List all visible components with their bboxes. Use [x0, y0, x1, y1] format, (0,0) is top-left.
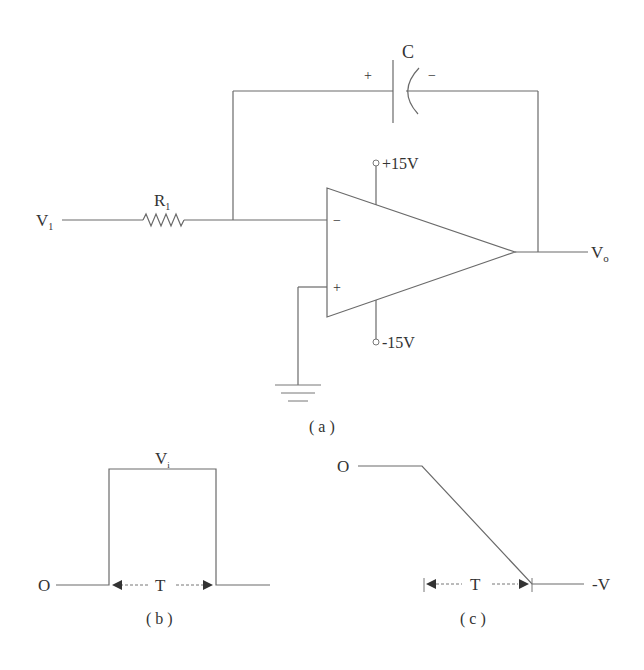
input-voltage-label: V1: [36, 211, 53, 232]
level-label-b: Vi: [155, 449, 170, 470]
arrow-right-icon: [519, 579, 529, 589]
integrator-diagram: C + − R1 V1 Vo +15V -15V − + ( a ) O T V…: [0, 0, 644, 670]
caption-a: ( a ): [309, 418, 335, 436]
resistor-r1: [143, 214, 184, 226]
vminus-supply-label: -15V: [382, 334, 415, 351]
capacitor-plus-sign: +: [364, 68, 372, 83]
output-voltage-label: Vo: [591, 243, 609, 264]
op-amp-triangle: [327, 188, 515, 317]
period-label-c: T: [470, 575, 481, 594]
square-pulse: [56, 469, 270, 585]
zero-label-c: O: [337, 457, 349, 476]
arrow-left-icon: [426, 579, 436, 589]
vplus-terminal-icon: [373, 160, 379, 166]
vminus-terminal-icon: [373, 339, 379, 345]
arrow-right-icon: [203, 580, 213, 590]
arrow-left-icon: [112, 580, 122, 590]
ground-icon: [275, 385, 321, 401]
capacitor-minus-sign: −: [428, 68, 436, 83]
ramp-waveform: [358, 466, 584, 584]
noninverting-sign: +: [333, 280, 341, 295]
waveform-b: O T Vi ( b ): [38, 449, 270, 628]
capacitor-label: C: [402, 42, 414, 62]
zero-label-b: O: [38, 576, 50, 595]
caption-b: ( b ): [146, 610, 173, 628]
resistor-label: R1: [154, 191, 170, 212]
final-level-label-c: -V: [592, 575, 611, 594]
inverting-sign: −: [333, 213, 341, 228]
circuit-a: C + − R1 V1 Vo +15V -15V − + ( a ): [36, 42, 609, 436]
caption-c: ( c ): [460, 610, 486, 628]
period-label-b: T: [155, 576, 166, 595]
waveform-c: O T -V ( c ): [337, 457, 611, 628]
vplus-supply-label: +15V: [382, 155, 419, 172]
